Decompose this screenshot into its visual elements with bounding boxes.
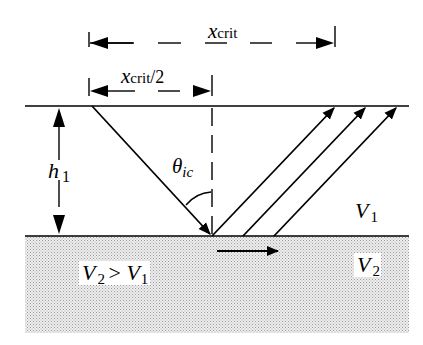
h1-label: h1 xyxy=(48,160,67,182)
upgoing-ray-2 xyxy=(243,108,365,236)
v1-label: V1 xyxy=(355,200,376,222)
v2-gt-v1-label: V2 > V1 xyxy=(79,261,150,285)
critical-angle-arc xyxy=(186,192,211,205)
x-crit-half-label: xcrit/2 xyxy=(121,66,164,87)
upgoing-ray-1 xyxy=(212,108,334,236)
theta-ic-label: θic xyxy=(172,156,193,177)
x-crit-label: xcrit xyxy=(208,21,237,42)
v2-label: V2 xyxy=(354,253,381,277)
